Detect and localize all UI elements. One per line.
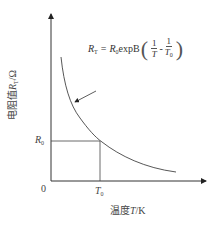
diagram-canvas: [0, 0, 220, 226]
x-axis-label: 温度T/K: [110, 202, 146, 217]
formula-equals: =: [101, 43, 107, 54]
right-paren: ): [176, 38, 183, 60]
origin-label: 0: [41, 183, 46, 194]
formula-exp: expB: [119, 43, 140, 54]
left-paren: (: [141, 38, 148, 60]
resistance-curve: [61, 57, 176, 172]
formula-lhs: RT: [88, 43, 98, 55]
fraction-1-over-t: 1 T: [151, 38, 158, 60]
t0-label: T0: [95, 185, 104, 197]
curve-pointer-arrow: [75, 91, 96, 102]
formula-r0: R0: [109, 43, 118, 55]
r0-label: R0: [35, 134, 44, 146]
formula-minus: -: [159, 43, 162, 54]
fraction-1-over-t0: 1 T0: [165, 36, 173, 61]
formula: RT = R0 expB ( 1 T - 1 T0 ): [88, 36, 184, 61]
y-axis-label: 电阻值RT/Ω: [4, 70, 19, 120]
